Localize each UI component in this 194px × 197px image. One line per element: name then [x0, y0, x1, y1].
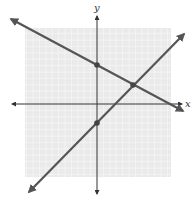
grid-background	[25, 28, 171, 177]
point-y-intercept-2	[94, 120, 100, 126]
point-intersection	[130, 82, 136, 88]
coordinate-plane: x y	[0, 0, 194, 197]
x-axis-label: x	[185, 98, 191, 109]
point-y-intercept-1	[94, 62, 100, 68]
y-axis-label: y	[93, 2, 100, 13]
